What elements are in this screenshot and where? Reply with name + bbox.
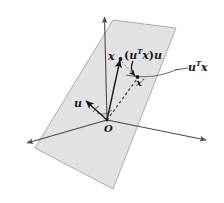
- vector-projection-figure: x (uTx)u x′ uTx u O: [0, 0, 224, 203]
- label-utx-x: x: [201, 61, 208, 74]
- origin-dot: [106, 119, 109, 122]
- label-origin-text: O: [104, 123, 113, 134]
- label-origin: O: [104, 124, 113, 134]
- point-x-dot: [119, 57, 123, 61]
- label-utx: uTx: [188, 61, 208, 73]
- label-u: u: [74, 98, 82, 109]
- diagram-canvas: [0, 0, 224, 203]
- label-x-prime-mark: ′: [142, 77, 145, 88]
- label-x-text: x: [108, 50, 115, 63]
- label-utx-u: u: [188, 61, 196, 74]
- label-u-text: u: [74, 97, 82, 110]
- label-projection: (uTx)u: [124, 49, 162, 61]
- label-x-prime: x′: [136, 78, 145, 88]
- label-projection-tail: u: [154, 49, 162, 62]
- label-x: x: [108, 51, 115, 62]
